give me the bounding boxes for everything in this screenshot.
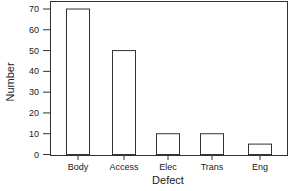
y-axis: 010203040506070 bbox=[29, 4, 50, 160]
y-tick-label: 0 bbox=[34, 150, 39, 160]
y-tick-label: 40 bbox=[29, 66, 39, 76]
y-tick-label: 20 bbox=[29, 108, 39, 118]
x-axis: BodyAccessElecTransEng bbox=[68, 156, 268, 173]
bar-body bbox=[67, 9, 90, 155]
bars bbox=[67, 9, 272, 155]
bar-eng bbox=[249, 144, 272, 154]
y-tick-label: 70 bbox=[29, 4, 39, 14]
bar-chart: 010203040506070 BodyAccessElecTransEng D… bbox=[0, 0, 292, 191]
bar-trans bbox=[201, 134, 224, 155]
bar-elec bbox=[157, 134, 180, 155]
y-axis-label: Number bbox=[4, 62, 16, 101]
chart-canvas: 010203040506070 BodyAccessElecTransEng D… bbox=[0, 0, 292, 191]
bar-access bbox=[113, 51, 136, 155]
y-tick-label: 10 bbox=[29, 129, 39, 139]
x-tick-label: Elec bbox=[159, 162, 177, 172]
x-tick-label: Eng bbox=[252, 162, 268, 172]
y-tick-label: 60 bbox=[29, 25, 39, 35]
x-tick-label: Trans bbox=[201, 162, 224, 172]
x-tick-label: Access bbox=[109, 162, 139, 172]
x-axis-label: Defect bbox=[152, 174, 184, 186]
x-tick-label: Body bbox=[68, 162, 89, 172]
y-tick-label: 30 bbox=[29, 87, 39, 97]
y-tick-label: 50 bbox=[29, 46, 39, 56]
